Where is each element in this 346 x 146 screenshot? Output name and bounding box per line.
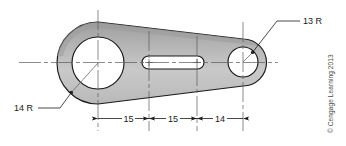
callout-14r-leader	[38, 93, 71, 108]
dimension-label-3: 14	[215, 114, 225, 124]
dimension-segment-2: 15	[149, 114, 197, 124]
technical-drawing-figure: 15 15 14 13 R 14 R	[0, 0, 346, 146]
callout-13r-label: 13 R	[303, 16, 323, 26]
callout-14r: 14 R	[14, 91, 73, 113]
dimension-segment-1: 15	[98, 114, 149, 124]
dimension-label-1: 15	[123, 114, 133, 124]
dimension-segment-3: 14	[197, 114, 243, 124]
copyright-credit: © Cengage Learning 2013	[327, 54, 335, 133]
dimension-chain: 15 15 14	[98, 114, 243, 124]
drawing-canvas: 15 15 14 13 R 14 R	[0, 0, 346, 146]
callout-14r-label: 14 R	[14, 103, 34, 113]
dimension-label-2: 15	[168, 114, 178, 124]
